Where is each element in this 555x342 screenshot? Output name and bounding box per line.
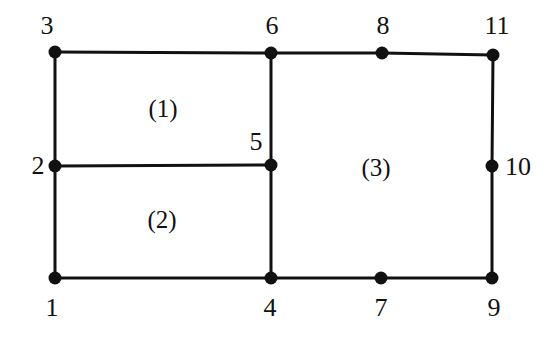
mesh-edge-8-11 xyxy=(382,53,493,55)
region-label-2: (2) xyxy=(147,207,176,232)
mesh-node-5 xyxy=(265,159,278,172)
node-label-7: 7 xyxy=(375,295,388,321)
node-label-5: 5 xyxy=(250,129,263,155)
mesh-diagram: 1234567891011 (1)(2)(3) xyxy=(0,0,555,342)
mesh-edge-3-6 xyxy=(55,52,271,53)
node-label-6: 6 xyxy=(266,13,279,39)
mesh-node-8 xyxy=(376,47,389,60)
mesh-node-6 xyxy=(265,47,278,60)
node-label-8: 8 xyxy=(377,13,390,39)
node-label-4: 4 xyxy=(264,295,277,321)
node-label-11: 11 xyxy=(484,13,509,39)
mesh-edge-2-5 xyxy=(55,165,271,166)
region-label-1: (1) xyxy=(148,96,177,121)
mesh-node-10 xyxy=(486,160,499,173)
mesh-node-11 xyxy=(487,49,500,62)
node-label-3: 3 xyxy=(41,13,54,39)
mesh-canvas xyxy=(0,0,555,342)
node-label-9: 9 xyxy=(488,295,501,321)
node-label-1: 1 xyxy=(46,295,59,321)
mesh-node-7 xyxy=(375,272,388,285)
mesh-edge-11-10 xyxy=(492,55,493,166)
mesh-node-1 xyxy=(49,272,62,285)
node-label-2: 2 xyxy=(32,153,45,179)
mesh-node-2 xyxy=(49,160,62,173)
mesh-node-9 xyxy=(486,272,499,285)
node-label-10: 10 xyxy=(505,154,531,180)
region-label-3: (3) xyxy=(361,155,390,180)
mesh-node-4 xyxy=(265,272,278,285)
mesh-node-3 xyxy=(49,46,62,59)
